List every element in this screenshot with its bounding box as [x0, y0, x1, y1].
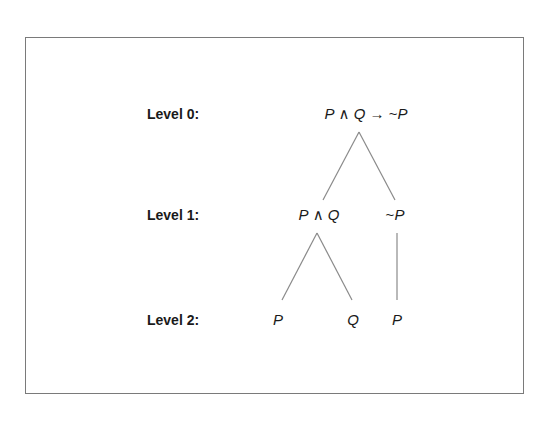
variable: P [398, 105, 408, 122]
node-root: P ∧ Q → ~P [324, 106, 407, 122]
variable: Q [328, 206, 340, 223]
variable: P [298, 206, 308, 223]
node-conjunction: P ∧ Q [298, 207, 339, 223]
level-2-label: Level 2: [147, 312, 199, 328]
node-leaf-q: Q [347, 312, 359, 328]
diagram-frame [25, 37, 524, 394]
level-0-label: Level 0: [147, 106, 199, 122]
operator: ∧ [334, 105, 353, 122]
variable: P [394, 206, 404, 223]
operator: ∧ [309, 206, 328, 223]
level-1-label: Level 1: [147, 207, 199, 223]
variable: P [392, 311, 402, 328]
operator: ~ [386, 206, 395, 223]
operator: → ~ [365, 105, 397, 122]
variable: P [273, 311, 283, 328]
node-negation: ~P [386, 207, 405, 223]
variable: Q [354, 105, 366, 122]
node-leaf-p-negated: P [392, 312, 402, 328]
node-leaf-p: P [273, 312, 283, 328]
variable: P [324, 105, 334, 122]
variable: Q [347, 311, 359, 328]
